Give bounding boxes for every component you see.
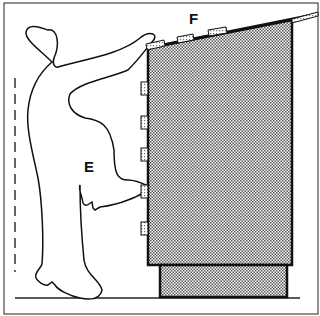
sloped-top-overhang: [292, 12, 318, 23]
side-tab: [141, 185, 148, 198]
side-tab: [141, 148, 148, 161]
side-tab: [141, 82, 148, 95]
diagram-canvas: E F: [0, 0, 320, 316]
cabinet-body: [148, 20, 292, 265]
side-tab: [141, 222, 148, 235]
cabinet-base: [160, 265, 287, 297]
label-top-shelf: F: [189, 10, 198, 27]
side-tab: [141, 116, 148, 129]
label-person: E: [84, 158, 94, 175]
